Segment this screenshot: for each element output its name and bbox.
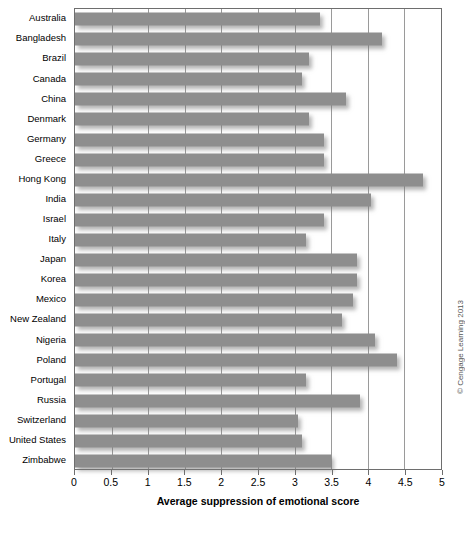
x-axis-tick-label: 3.5 [324, 476, 339, 488]
bar [75, 33, 382, 46]
x-axis-tick [258, 470, 259, 475]
y-axis-label: Russia [0, 389, 70, 409]
bar-row [75, 230, 441, 250]
y-axis-label: Bangladesh [0, 28, 70, 48]
bar-row [75, 431, 441, 451]
bar-row [75, 330, 441, 350]
y-axis-labels: AustraliaBangladeshBrazilCanadaChinaDenm… [0, 8, 70, 470]
y-axis-label: Hong Kong [0, 169, 70, 189]
y-axis-label: Portugal [0, 369, 70, 389]
bar-row [75, 310, 441, 330]
y-axis-label: Germany [0, 128, 70, 148]
bar [75, 414, 298, 427]
x-axis-tick [148, 470, 149, 475]
bar [75, 274, 357, 287]
bar-row [75, 451, 441, 471]
bar-row [75, 270, 441, 290]
x-axis-tick-label: 5 [439, 476, 445, 488]
bar-row [75, 69, 441, 89]
bar [75, 394, 360, 407]
y-axis-label: New Zealand [0, 309, 70, 329]
y-axis-label: Greece [0, 149, 70, 169]
bar [75, 334, 375, 347]
bar-row [75, 109, 441, 129]
y-axis-label: Korea [0, 269, 70, 289]
bar [75, 374, 306, 387]
bar-row [75, 89, 441, 109]
y-axis-label: Denmark [0, 108, 70, 128]
y-axis-label: China [0, 88, 70, 108]
bar [75, 233, 306, 246]
bar-row [75, 129, 441, 149]
y-axis-label: Italy [0, 229, 70, 249]
bar [75, 213, 324, 226]
bar [75, 93, 346, 106]
x-axis-tick-label: 4.5 [398, 476, 413, 488]
bar [75, 434, 302, 447]
bar [75, 113, 309, 126]
bar-row [75, 370, 441, 390]
bar [75, 314, 342, 327]
x-axis-title: Average suppression of emotional score [74, 495, 442, 507]
x-axis-tick [184, 470, 185, 475]
x-axis-tick [442, 470, 443, 475]
x-axis-tick [221, 470, 222, 475]
bar-row [75, 170, 441, 190]
y-axis-label: Mexico [0, 289, 70, 309]
bar-row [75, 210, 441, 230]
bar-row [75, 350, 441, 370]
bar [75, 173, 423, 186]
bar [75, 354, 397, 367]
bar [75, 133, 324, 146]
credit-text: © Cengage Learning 2013 [456, 300, 465, 394]
bar [75, 253, 357, 266]
y-axis-label: Switzerland [0, 410, 70, 430]
x-axis-tick-label: 2.5 [251, 476, 266, 488]
x-axis-tick-label: 2 [218, 476, 224, 488]
y-axis-label: Nigeria [0, 329, 70, 349]
bar-row [75, 190, 441, 210]
bar [75, 153, 324, 166]
bar [75, 53, 309, 66]
bar-row [75, 29, 441, 49]
bar [75, 73, 302, 86]
y-axis-label: Zimbabwe [0, 450, 70, 470]
bar-row [75, 150, 441, 170]
y-axis-label: Poland [0, 349, 70, 369]
bar [75, 193, 371, 206]
x-axis-tick-label: 0.5 [103, 476, 118, 488]
x-axis-tick-label: 1 [145, 476, 151, 488]
plot-area [74, 8, 442, 470]
y-axis-label: United States [0, 430, 70, 450]
y-axis-label: India [0, 189, 70, 209]
bar-row [75, 49, 441, 69]
x-axis-tick-label: 1.5 [177, 476, 192, 488]
bar-row [75, 250, 441, 270]
x-axis-tick-label: 3 [292, 476, 298, 488]
x-axis-tick [332, 470, 333, 475]
bar [75, 294, 353, 307]
x-axis-ticks: 00.511.522.533.544.55 [74, 470, 442, 478]
bar-row [75, 411, 441, 431]
x-axis-tick [295, 470, 296, 475]
bar [75, 13, 320, 26]
y-axis-label: Brazil [0, 48, 70, 68]
bar-row [75, 9, 441, 29]
x-axis-tick [111, 470, 112, 475]
y-axis-label: Australia [0, 8, 70, 28]
y-axis-label: Canada [0, 68, 70, 88]
bar-rows [75, 9, 441, 469]
y-axis-label: Israel [0, 209, 70, 229]
bar-row [75, 390, 441, 410]
bar-row [75, 290, 441, 310]
bar [75, 454, 331, 467]
x-axis-tick-label: 0 [71, 476, 77, 488]
x-axis-tick-label: 4 [365, 476, 371, 488]
y-axis-label: Japan [0, 249, 70, 269]
x-axis-tick [368, 470, 369, 475]
x-axis-tick [74, 470, 75, 475]
x-axis-tick [405, 470, 406, 475]
